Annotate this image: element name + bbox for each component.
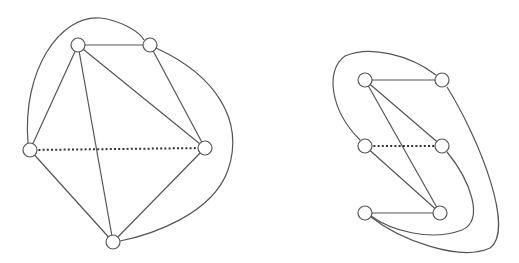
- graph-diagram: [0, 0, 519, 263]
- edge-b-d: [150, 45, 205, 148]
- curved-edge-r-q: [333, 51, 436, 140]
- left-graph: [23, 18, 233, 249]
- edge-a-e: [78, 45, 113, 242]
- right-graph: [333, 51, 498, 252]
- curved-edge-c-b: [27, 18, 144, 143]
- node-e: [106, 235, 120, 249]
- curved-edge-q-t: [371, 87, 498, 252]
- node-p: [358, 73, 372, 87]
- node-c: [23, 143, 37, 157]
- curved-edge-b-e: [120, 48, 233, 241]
- edge-c-e: [30, 150, 113, 242]
- node-q: [435, 73, 449, 87]
- node-s: [435, 139, 449, 153]
- dotted-edge-c-d: [30, 148, 205, 150]
- node-a: [71, 38, 85, 52]
- edge-a-c: [30, 45, 78, 150]
- edge-r-u: [365, 146, 440, 213]
- node-t: [358, 206, 372, 220]
- node-d: [198, 141, 212, 155]
- node-u: [433, 206, 447, 220]
- edge-p-s: [365, 80, 442, 146]
- edge-d-e: [113, 148, 205, 242]
- diagram-canvas: [0, 0, 519, 263]
- node-r: [358, 139, 372, 153]
- edge-a-d: [78, 45, 205, 148]
- node-b: [143, 38, 157, 52]
